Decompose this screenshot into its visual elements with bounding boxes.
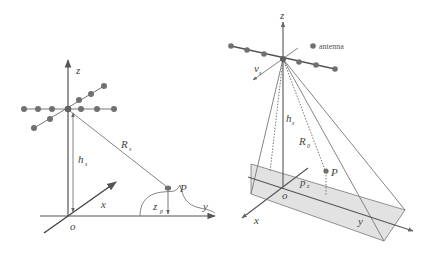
right-y-axis <box>248 177 413 231</box>
right-p-label: P <box>330 166 338 178</box>
left-p-label: P <box>179 182 187 194</box>
legend-antenna-icon <box>310 43 316 49</box>
left-hs-sub: s <box>85 161 88 167</box>
left-z-label: z <box>75 64 81 76</box>
right-z-label: z <box>279 9 285 21</box>
right-hs-sub: s <box>292 120 295 126</box>
left-zp-label: z <box>152 200 158 212</box>
left-rs-label: R <box>120 138 128 150</box>
left-hs-label: h <box>78 153 84 165</box>
legend-antenna-label: antenna <box>319 42 344 51</box>
right-diagram: antenna z v s h s R 0 P p z o x y <box>228 9 413 241</box>
left-x-label: x <box>100 198 106 210</box>
left-antenna-array <box>21 83 117 131</box>
left-point-p <box>165 185 171 190</box>
right-y-label: y <box>357 215 363 227</box>
right-vs-sub: s <box>259 70 262 76</box>
left-range-line <box>70 111 167 187</box>
right-pz-label: p <box>299 176 306 188</box>
right-r0-sub: 0 <box>307 143 310 149</box>
legend: antenna <box>310 42 344 51</box>
right-point-p <box>323 168 328 173</box>
left-rs-sub: s <box>129 146 132 152</box>
sar-geometry-figure: z x y o h s R s P z p <box>0 0 431 255</box>
left-origin-label: o <box>70 220 76 232</box>
right-x-label: x <box>253 214 259 226</box>
left-y-label: y <box>202 200 208 212</box>
right-ground-swath <box>251 164 405 241</box>
left-zp-sub: p <box>159 208 163 214</box>
right-origin-label: o <box>282 189 288 201</box>
right-r0-label: R <box>298 135 306 147</box>
left-diagram: z x y o h s R s P z p <box>21 60 215 233</box>
